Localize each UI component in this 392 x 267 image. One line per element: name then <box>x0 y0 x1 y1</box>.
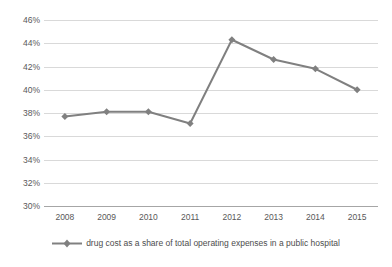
y-axis-tick-label: 44% <box>0 39 40 48</box>
x-axis-tick-label: 2012 <box>212 210 252 224</box>
data-point-marker <box>270 56 277 63</box>
y-axis-tick-label: 32% <box>0 179 40 188</box>
x-axis-tick-label: 2011 <box>170 210 210 224</box>
line-chart: 46%44%42%40%38%36%34%32%30% 200820092010… <box>0 0 392 267</box>
y-axis-tick-label: 40% <box>0 86 40 95</box>
y-axis-tick-label: 38% <box>0 109 40 118</box>
y-axis-tick-label: 30% <box>0 202 40 211</box>
legend-label: drug cost as a share of total operating … <box>86 238 340 249</box>
x-axis-tick-label: 2009 <box>87 210 127 224</box>
series-drug-cost-share <box>44 20 378 206</box>
plot-area <box>44 20 378 206</box>
data-point-marker <box>354 86 361 93</box>
x-axis-labels: 20082009201020112012201320142015 <box>44 210 378 226</box>
data-point-marker <box>187 120 194 127</box>
data-point-marker <box>228 36 235 43</box>
x-axis-tick-label: 2015 <box>337 210 377 224</box>
x-axis-tick-label: 2013 <box>254 210 294 224</box>
data-point-marker <box>145 108 152 115</box>
x-axis-tick-label: 2008 <box>45 210 85 224</box>
x-axis-tick-label: 2010 <box>128 210 168 224</box>
x-axis-tick-label: 2014 <box>295 210 335 224</box>
x-axis-line <box>44 206 378 207</box>
chart-legend: drug cost as a share of total operating … <box>0 238 392 249</box>
data-point-marker <box>61 113 68 120</box>
legend-entry-drug-cost-share: drug cost as a share of total operating … <box>52 238 340 249</box>
y-axis-tick-label: 34% <box>0 156 40 165</box>
data-point-marker <box>103 108 110 115</box>
y-axis-tick-label: 46% <box>0 16 40 25</box>
diamond-marker-icon <box>52 238 82 249</box>
y-axis-tick-label: 42% <box>0 63 40 72</box>
data-point-marker <box>312 65 319 72</box>
y-axis-tick-label: 36% <box>0 132 40 141</box>
